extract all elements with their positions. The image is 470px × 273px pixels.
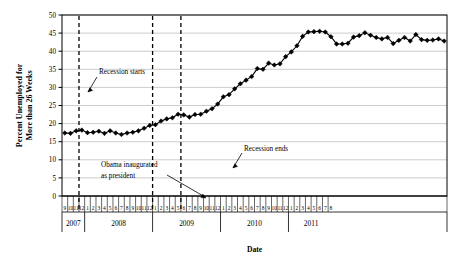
month-tick-label: 4 bbox=[103, 205, 106, 211]
data-point bbox=[442, 39, 447, 44]
annotation-obama-leader bbox=[167, 175, 205, 197]
annotation-obama-label-line1: Obama inaugurated bbox=[101, 161, 158, 169]
data-point bbox=[380, 37, 385, 42]
month-tick-label: 4 bbox=[171, 205, 174, 211]
data-point bbox=[368, 33, 373, 38]
y-tick-label-10: 10 bbox=[49, 156, 57, 164]
y-tick-label-20: 20 bbox=[49, 120, 57, 128]
month-tick-label: 4 bbox=[307, 205, 310, 211]
month-tick-label: 9 bbox=[199, 205, 202, 211]
annotation-obama-label-line2: as president bbox=[101, 172, 135, 180]
y-axis bbox=[59, 15, 63, 196]
y-tick-label-50: 50 bbox=[49, 12, 57, 20]
year-tick-label: 2008 bbox=[111, 219, 126, 228]
month-tick-label: 12 bbox=[147, 205, 153, 211]
chart-svg: 05101520253035404550Percent Unemployed f… bbox=[0, 0, 470, 273]
data-point bbox=[130, 130, 135, 135]
data-point bbox=[91, 130, 96, 135]
data-point bbox=[272, 63, 277, 68]
y-tick-label-40: 40 bbox=[49, 48, 57, 56]
month-tick-label: 12 bbox=[283, 205, 289, 211]
month-tick-label: 3 bbox=[301, 205, 304, 211]
month-tick-label: 3 bbox=[97, 205, 100, 211]
data-point bbox=[119, 132, 124, 137]
month-tick-label: 5 bbox=[177, 205, 180, 211]
data-point bbox=[85, 130, 90, 135]
y-tick-label-0: 0 bbox=[52, 193, 56, 201]
month-tick-label: 7 bbox=[188, 205, 191, 211]
month-tick-label: 1 bbox=[222, 205, 225, 211]
y-tick-label-30: 30 bbox=[49, 84, 57, 92]
annotation-recession-ends-label: Recession ends bbox=[244, 145, 288, 153]
data-point bbox=[181, 113, 186, 118]
data-point bbox=[204, 109, 209, 114]
year-tick-label: 2007 bbox=[66, 219, 81, 228]
data-point bbox=[164, 117, 169, 122]
data-point bbox=[63, 131, 68, 136]
unemployment-duration-chart: 05101520253035404550Percent Unemployed f… bbox=[0, 0, 470, 273]
data-point bbox=[397, 38, 402, 43]
month-tick-label: 8 bbox=[262, 205, 265, 211]
data-point bbox=[431, 38, 436, 43]
data-point bbox=[198, 112, 203, 117]
data-point bbox=[102, 131, 107, 136]
month-tick-label: 2 bbox=[296, 205, 299, 211]
month-tick-label: 7 bbox=[324, 205, 327, 211]
month-tick-label: 5 bbox=[245, 205, 248, 211]
month-tick-label: 1 bbox=[154, 205, 157, 211]
year-tick-label: 2010 bbox=[247, 219, 262, 228]
month-tick-label: 4 bbox=[239, 205, 242, 211]
y-tick-label-35: 35 bbox=[49, 66, 57, 74]
month-tick-label: 5 bbox=[109, 205, 112, 211]
data-point bbox=[363, 30, 368, 35]
data-point bbox=[136, 129, 141, 134]
y-tick-label-45: 45 bbox=[49, 30, 57, 38]
month-tick-label: 2 bbox=[160, 205, 163, 211]
data-point bbox=[187, 115, 192, 120]
year-tick-label: 2011 bbox=[304, 219, 319, 228]
month-tick-label: 1 bbox=[86, 205, 89, 211]
month-tick-label: 8 bbox=[330, 205, 333, 211]
data-point bbox=[142, 126, 147, 131]
data-point bbox=[374, 35, 379, 40]
month-tick-label: 9 bbox=[131, 205, 134, 211]
month-tick-label: 5 bbox=[313, 205, 316, 211]
data-point bbox=[125, 131, 130, 136]
month-tick-label: 1 bbox=[290, 205, 293, 211]
month-tick-label: 3 bbox=[165, 205, 168, 211]
data-series bbox=[63, 29, 447, 137]
month-tick-label: 8 bbox=[126, 205, 129, 211]
month-tick-label: 8 bbox=[194, 205, 197, 211]
month-tick-label: 7 bbox=[256, 205, 259, 211]
data-point bbox=[74, 129, 79, 134]
month-tick-label: 6 bbox=[250, 205, 253, 211]
y-tick-label-5: 5 bbox=[52, 175, 56, 183]
month-tick-label: 6 bbox=[182, 205, 185, 211]
data-point bbox=[357, 33, 362, 38]
x-axis-title: Date bbox=[247, 245, 263, 254]
data-point bbox=[436, 37, 441, 42]
annotation-recession-starts-arrowhead bbox=[88, 88, 93, 92]
data-point bbox=[80, 128, 85, 133]
month-tick-label: 6 bbox=[114, 205, 117, 211]
annotations bbox=[79, 16, 242, 212]
series-line bbox=[65, 31, 444, 134]
month-tick-label: 2 bbox=[92, 205, 95, 211]
y-tick-label-15: 15 bbox=[49, 138, 57, 146]
month-tick-label: 9 bbox=[267, 205, 270, 211]
y-axis-title-line2: More than 26 Weeks bbox=[25, 70, 34, 140]
month-tick-label: 12 bbox=[79, 205, 85, 211]
month-tick-label: 12 bbox=[215, 205, 221, 211]
month-tick-label: 9 bbox=[63, 205, 66, 211]
data-point bbox=[108, 129, 113, 134]
data-point bbox=[68, 131, 73, 136]
data-point bbox=[97, 129, 102, 134]
month-tick-label: 3 bbox=[233, 205, 236, 211]
data-point bbox=[425, 38, 430, 43]
month-tick-label: 7 bbox=[120, 205, 123, 211]
data-point bbox=[193, 112, 198, 117]
annotation-recession-ends-arrowhead bbox=[233, 164, 238, 168]
month-tick-label: 6 bbox=[318, 205, 321, 211]
y-tick-label-25: 25 bbox=[49, 102, 57, 110]
y-axis-title-line1: Percent Unemployed for bbox=[15, 63, 24, 147]
